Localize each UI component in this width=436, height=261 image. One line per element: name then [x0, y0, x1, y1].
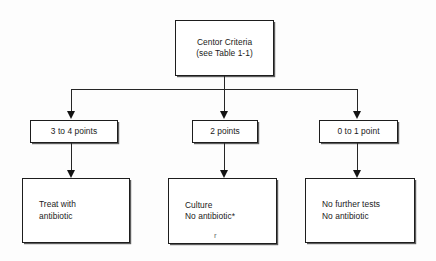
connector-branch-right	[357, 89, 358, 111]
node-criteria-0-to-1-point[interactable]: 0 to 1 point	[319, 120, 398, 143]
node-action-treat-with-antibiotic[interactable]: Treat with antibiotic	[22, 178, 130, 243]
arrowhead-to-action-right	[353, 170, 361, 178]
node-centor-criteria-line1: Centor Criteria	[197, 37, 252, 48]
node-criteria-0-to-1-point-label: 0 to 1 point	[337, 126, 379, 137]
connector-distribution-bus	[71, 89, 358, 90]
node-action-no-further-tests[interactable]: No further tests No antibiotic	[305, 178, 415, 243]
arrowhead-to-action-middle	[220, 170, 228, 178]
connector-branch-middle	[224, 89, 225, 111]
node-action-culture-line1: Culture	[185, 200, 276, 211]
node-action-no-tests-line1: No further tests	[322, 199, 414, 210]
flowchart-canvas: Centor Criteria (see Table 1-1) 3 to 4 p…	[0, 0, 436, 261]
node-action-no-tests-line2: No antibiotic	[322, 211, 414, 222]
node-action-treat-line1: Treat with	[39, 199, 129, 210]
node-criteria-2-points-label: 2 points	[210, 126, 240, 137]
connector-criteria-left-to-action	[71, 143, 72, 170]
connector-branch-left	[71, 89, 72, 111]
node-centor-criteria-line2: (see Table 1-1)	[196, 48, 252, 59]
node-action-culture-no-antibiotic[interactable]: Culture No antibiotic*	[168, 178, 277, 244]
node-criteria-3-to-4-points-label: 3 to 4 points	[51, 126, 97, 137]
node-action-culture-line2: No antibiotic*	[185, 211, 276, 222]
node-criteria-2-points[interactable]: 2 points	[192, 120, 258, 143]
scan-artifact-glyph: r	[214, 232, 217, 240]
node-action-treat-line2: antibiotic	[39, 211, 129, 222]
arrowhead-to-criteria-middle	[220, 111, 228, 119]
connector-root-stem	[224, 76, 225, 89]
connector-criteria-middle-to-action	[224, 143, 225, 170]
arrowhead-to-action-left	[67, 170, 75, 178]
arrowhead-to-criteria-left	[67, 111, 75, 119]
arrowhead-to-criteria-right	[353, 111, 361, 119]
node-centor-criteria[interactable]: Centor Criteria (see Table 1-1)	[175, 20, 274, 76]
node-criteria-3-to-4-points[interactable]: 3 to 4 points	[30, 120, 118, 143]
connector-criteria-right-to-action	[357, 143, 358, 170]
